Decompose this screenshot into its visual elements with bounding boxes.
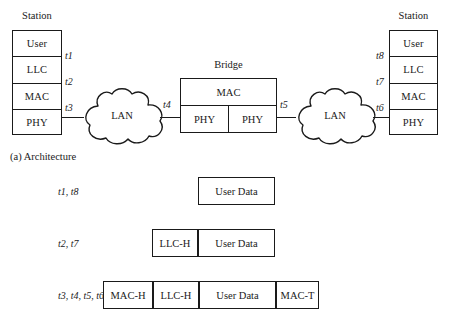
- figure-canvas: Station User LLC MAC PHY t1 t2 t3 LAN t4…: [0, 0, 450, 312]
- left-station-layer-llc: LLC: [13, 57, 61, 83]
- right-station-layer-mac: MAC: [390, 84, 437, 110]
- pdu-field-llc-header: LLC-H: [153, 281, 199, 309]
- pdu-row-2: LLC-H User Data: [152, 229, 275, 257]
- service-point-t2: t2: [65, 77, 73, 87]
- left-station-title: Station: [12, 10, 62, 21]
- service-point-t3: t3: [65, 103, 73, 113]
- pdu-field-user-data: User Data: [198, 177, 275, 205]
- service-point-t8: t8: [376, 51, 384, 61]
- right-station-layer-phy: PHY: [390, 110, 437, 136]
- pdu-row-1: User Data: [198, 177, 275, 205]
- bridge-phy-left: PHY: [181, 106, 228, 132]
- service-point-t1: t1: [65, 51, 73, 61]
- service-point-t7: t7: [376, 77, 384, 87]
- wire-right-lan-to-station: [373, 117, 390, 119]
- bridge-mac-layer: MAC: [181, 79, 276, 106]
- bridge-title: Bridge: [180, 59, 277, 70]
- lan-cloud-right-label: LAN: [291, 110, 379, 121]
- pdu-field-mac-trailer: MAC-T: [276, 281, 319, 309]
- right-station-layer-user: User: [390, 31, 437, 57]
- left-station-layer-mac: MAC: [13, 84, 61, 110]
- service-point-t5: t5: [280, 100, 288, 110]
- lan-cloud-left-label: LAN: [78, 110, 166, 121]
- pdu-row-3: MAC-H LLC-H User Data MAC-T: [103, 281, 319, 309]
- pdu-row-2-points: t2, t7: [58, 238, 79, 249]
- lan-cloud-left: LAN: [78, 88, 166, 146]
- left-station-stack: User LLC MAC PHY: [12, 30, 62, 135]
- pdu-field-user-data: User Data: [198, 229, 275, 257]
- pdu-field-llc-header: LLC-H: [152, 229, 198, 257]
- section-caption: (a) Architecture: [10, 151, 76, 162]
- left-station-layer-user: User: [13, 31, 61, 57]
- right-station-title: Station: [389, 10, 438, 21]
- pdu-row-3-points: t3, t4, t5, t6: [58, 290, 104, 301]
- right-station-stack: User LLC MAC PHY: [389, 30, 438, 135]
- right-station-layer-llc: LLC: [390, 57, 437, 83]
- bridge-phy-right: PHY: [228, 106, 276, 132]
- bridge-phy-row: PHY PHY: [181, 106, 276, 132]
- pdu-row-1-points: t1, t8: [58, 186, 79, 197]
- lan-cloud-right: LAN: [291, 88, 379, 146]
- service-point-t6: t6: [376, 103, 384, 113]
- service-point-t4: t4: [163, 100, 171, 110]
- pdu-field-user-data: User Data: [199, 281, 276, 309]
- left-station-layer-phy: PHY: [13, 110, 61, 136]
- pdu-field-mac-header: MAC-H: [103, 281, 153, 309]
- wire-left-lan-to-bridge: [160, 117, 181, 119]
- bridge-box: MAC PHY PHY: [180, 78, 277, 133]
